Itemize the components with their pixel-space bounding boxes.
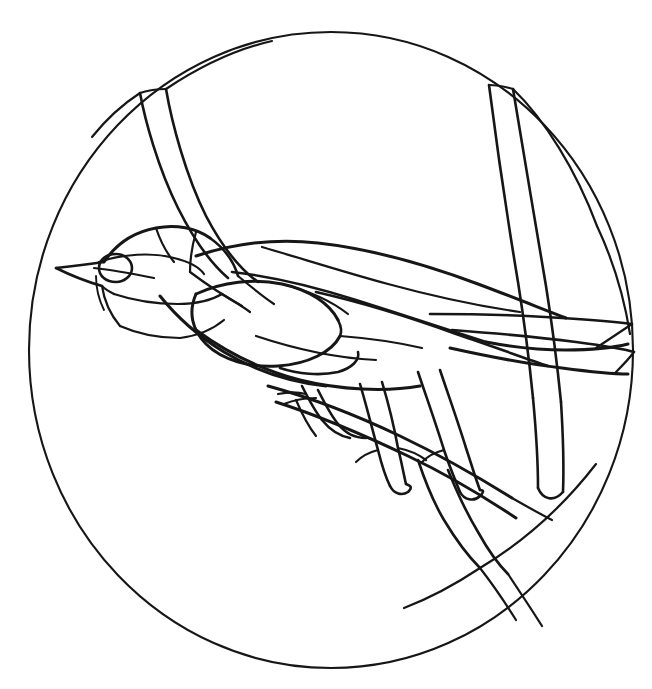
leg-front-foot bbox=[390, 484, 411, 494]
throat-seam bbox=[120, 326, 180, 338]
cheek-seam-a bbox=[114, 294, 222, 304]
rim-chord-lower bbox=[404, 568, 480, 608]
bird-body-group bbox=[160, 241, 634, 389]
branch-upper-right-group bbox=[489, 85, 630, 498]
branch-main-right-edge bbox=[512, 498, 552, 520]
tertials-seam bbox=[340, 336, 422, 348]
coverts-lower-outline bbox=[192, 294, 340, 366]
wing-primary-seam bbox=[316, 292, 548, 366]
tail-tip-b bbox=[616, 352, 634, 372]
branch-upper-right-lower-b bbox=[561, 402, 563, 492]
back-top-outline bbox=[196, 241, 566, 318]
bird-stained-glass-pattern bbox=[0, 0, 652, 689]
branch-main-group bbox=[268, 386, 596, 626]
tail-top-edge bbox=[430, 314, 632, 324]
branch-upper-right-cap bbox=[538, 488, 563, 498]
toe-front-a bbox=[356, 450, 378, 462]
tail-lower-edge bbox=[450, 348, 628, 374]
branch-upper-right-lower-a bbox=[533, 398, 538, 488]
toes-wrap-b bbox=[318, 390, 366, 438]
leg-rear-edge-b bbox=[440, 370, 480, 490]
branch-upper-left-tip-left bbox=[92, 93, 140, 137]
branch-upper-left-tip-right bbox=[166, 41, 272, 89]
leg-rear-edge-a bbox=[418, 372, 460, 492]
beak-upper bbox=[56, 262, 104, 268]
branch-upper-left-edge-b bbox=[166, 89, 258, 282]
branch-main-bottom-edge bbox=[276, 402, 516, 518]
coverts-upper-outline bbox=[196, 281, 338, 320]
shoulder-seam-a bbox=[190, 272, 242, 306]
branch-to-rim-a bbox=[480, 568, 516, 620]
wing-coverts-group bbox=[190, 272, 422, 374]
branch-main-top-edge bbox=[268, 386, 512, 498]
branch-upper-right-edge-a bbox=[489, 85, 533, 398]
coverts-seam bbox=[338, 320, 341, 336]
artboard bbox=[0, 0, 652, 689]
